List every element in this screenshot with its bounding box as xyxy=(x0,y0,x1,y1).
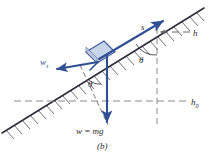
height-lower-subscript: 0 xyxy=(196,103,199,109)
w-s-label: ws xyxy=(40,58,48,69)
height-lower-label: h0 xyxy=(191,98,199,109)
weight-equation-label: w = mg xyxy=(76,127,104,136)
incline-surface-line xyxy=(2,8,204,133)
height-upper-label: h xyxy=(193,29,198,38)
incline-diagram xyxy=(0,0,209,162)
figure-caption: (b) xyxy=(97,142,108,151)
w-s-label-subscript: s xyxy=(46,63,48,69)
angle-construction-dashed xyxy=(80,65,108,125)
displacement-label: s xyxy=(141,23,145,32)
theta-vertical-label: θ xyxy=(139,56,143,65)
physics-figure: ws s h h0 θ θ w = mg (b) xyxy=(0,0,209,162)
theta-incline-label: θ xyxy=(88,80,92,89)
